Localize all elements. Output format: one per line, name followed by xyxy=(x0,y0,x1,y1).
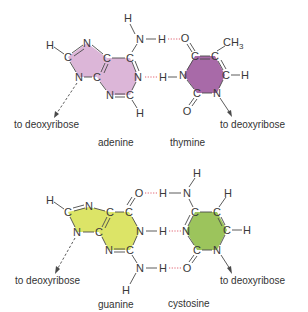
atom-n: N xyxy=(83,37,91,49)
atom-c: C xyxy=(213,206,221,218)
atom-h: H xyxy=(158,33,166,45)
atom-c: C xyxy=(193,244,201,256)
atom-h: H xyxy=(241,69,249,81)
atom-o: O xyxy=(183,262,192,274)
atom-c: C xyxy=(211,50,219,62)
atom-c: C xyxy=(64,51,72,63)
thymine-molecule: O C C CH3 N C H C N O xyxy=(179,32,249,117)
atom-h: H xyxy=(243,224,251,236)
thymine-arrow-head xyxy=(227,110,232,117)
atom-n: N xyxy=(213,244,221,256)
atom-n: N xyxy=(106,89,114,101)
methyl-group: CH3 xyxy=(223,36,244,51)
atom-h: H xyxy=(159,262,167,274)
atom-n: N xyxy=(183,187,191,199)
adenine-arrow-head xyxy=(54,111,59,118)
atom-h: H xyxy=(159,225,167,237)
atom-o: O xyxy=(183,105,192,117)
atom-c: C xyxy=(191,206,199,218)
atom-o: O xyxy=(135,187,144,199)
atom-n: N xyxy=(85,200,93,212)
atom-c: C xyxy=(223,224,231,236)
atom-n: N xyxy=(73,226,81,238)
base-pair-diagram: H C N C C N C N N C H H N H H xyxy=(0,0,308,312)
atom-c: C xyxy=(191,50,199,62)
atom-n: N xyxy=(105,244,113,256)
atom-c: C xyxy=(222,69,230,81)
atom-n: N xyxy=(134,71,142,83)
atom-n: N xyxy=(179,69,187,81)
atom-h: H xyxy=(124,12,132,24)
atom-h: H xyxy=(46,194,54,206)
atom-c: C xyxy=(106,206,114,218)
adenine-deoxyribose-label: to deoxyribose xyxy=(14,119,79,130)
atom-c: C xyxy=(125,206,133,218)
guanine-label: guanine xyxy=(98,299,134,310)
atom-h: H xyxy=(159,71,167,83)
atom-n: N xyxy=(213,87,221,99)
thymine-deoxyribose-label: to deoxyribose xyxy=(220,119,285,130)
atom-h: H xyxy=(159,187,167,199)
atom-c: C xyxy=(93,71,101,83)
atom-n: N xyxy=(182,225,190,237)
atom-h: H xyxy=(224,187,232,199)
thymine-label: thymine xyxy=(170,137,205,148)
atom-h: H xyxy=(122,284,130,296)
adenine-label: adenine xyxy=(98,137,134,148)
atom-c: C xyxy=(193,87,201,99)
cytosine-label: cystosine xyxy=(168,298,210,309)
atom-o: O xyxy=(181,32,190,44)
atom-c: C xyxy=(126,52,134,64)
atom-c: C xyxy=(95,226,103,238)
atom-n: N xyxy=(75,71,83,83)
guanine-deoxyribose-label: to deoxyribose xyxy=(15,275,80,286)
atom-c: C xyxy=(64,206,72,218)
atom-n: N xyxy=(136,225,144,237)
atom-n: N xyxy=(136,33,144,45)
cytosine-molecule: H N H C C N C H C N O xyxy=(182,167,251,274)
atom-c: C xyxy=(126,244,134,256)
cytosine-arrow-head xyxy=(227,266,232,274)
atom-c: C xyxy=(126,89,134,101)
atom-n: N xyxy=(136,262,144,274)
atom-h: H xyxy=(136,107,144,119)
cytosine-deoxyribose-label: to deoxyribose xyxy=(220,275,285,286)
atom-h: H xyxy=(46,39,54,51)
adenine-molecule: H C N C C N C N N C H H N H xyxy=(46,12,166,119)
guanine-arrow-head xyxy=(55,266,60,274)
atom-h: H xyxy=(193,167,201,179)
atom-c: C xyxy=(103,52,111,64)
